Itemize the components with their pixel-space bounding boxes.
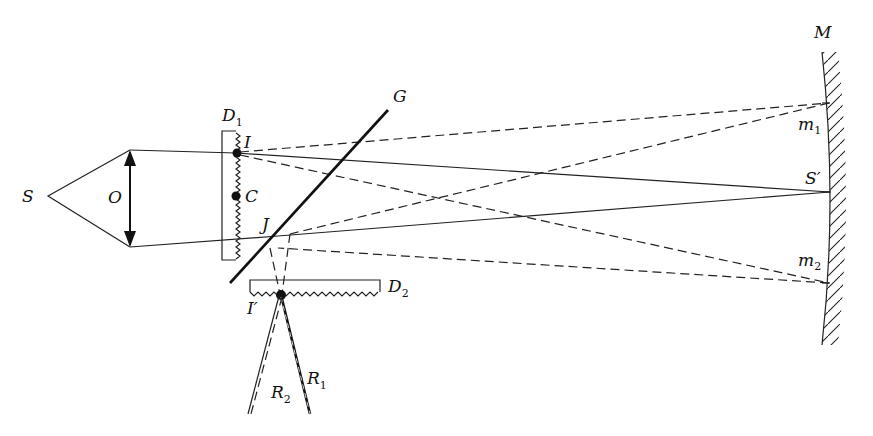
optical-diagram: S O D1 I C J G D2 I′ R1 R2 M m1 S′ m2: [0, 0, 873, 436]
label-o: O: [108, 187, 122, 207]
label-i: I: [243, 132, 251, 152]
label-r2: R2: [270, 382, 291, 406]
label-g: G: [393, 86, 407, 106]
label-s-prime: S′: [805, 168, 821, 188]
lens-o: [124, 150, 136, 247]
mirror-m: [822, 52, 846, 345]
label-i-prime: I′: [246, 298, 258, 318]
label-j: J: [259, 214, 270, 234]
label-m: M: [813, 22, 832, 42]
point-c-dot: [232, 192, 241, 201]
label-d1: D1: [221, 105, 243, 129]
label-r1: R1: [306, 368, 327, 392]
label-c: C: [245, 186, 258, 206]
dashed-rays: [240, 103, 829, 294]
label-m1: m1: [798, 114, 821, 137]
grating-d2: [250, 280, 380, 296]
label-d2: D2: [387, 276, 409, 300]
point-i-dot: [233, 149, 242, 158]
label-m2: m2: [798, 250, 821, 273]
label-s: S: [22, 186, 34, 206]
